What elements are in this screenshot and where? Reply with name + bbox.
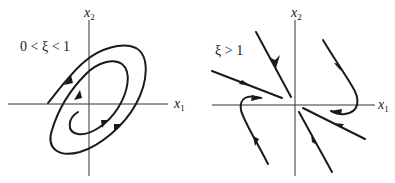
x1-axis-label: x1 — [378, 98, 389, 114]
x2-axis-label: x2 — [291, 6, 302, 22]
x2-subscript: 2 — [90, 12, 95, 22]
condition-label: 0 < ξ < 1 — [20, 40, 70, 54]
x2-axis-label: x2 — [84, 6, 95, 22]
phase-portrait-underdamped: x2 x1 0 < ξ < 1 — [0, 0, 200, 183]
node-plot — [195, 0, 395, 183]
arrow-icon — [239, 80, 251, 86]
x1-subscript: 1 — [384, 104, 389, 114]
condition-label: ξ > 1 — [215, 44, 243, 58]
x1-axis-label: x1 — [174, 97, 185, 113]
phase-portrait-overdamped: x2 x1 ξ > 1 — [195, 0, 395, 183]
spiral-plot — [0, 0, 200, 183]
arrow-icon — [74, 90, 82, 100]
arrow-icon — [251, 95, 263, 101]
trajectory — [256, 32, 291, 97]
arrow-icon — [101, 120, 108, 128]
spiral-trajectory — [48, 46, 146, 154]
x2-subscript: 2 — [297, 12, 302, 22]
trajectory — [323, 40, 357, 114]
x1-subscript: 1 — [180, 103, 185, 113]
arrow-icon — [114, 124, 122, 132]
trajectory — [241, 97, 268, 165]
